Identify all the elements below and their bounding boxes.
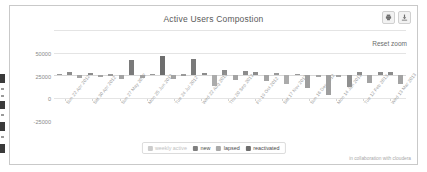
y-axis: 50000250000-25000 [10, 30, 51, 98]
bar[interactable] [378, 72, 383, 76]
legend-item-lapsed[interactable]: lapsed [216, 145, 239, 151]
legend-swatch-icon [193, 146, 198, 151]
legend-item-label: weekly active [155, 145, 187, 151]
legend-item-weekly-active[interactable]: weekly active [147, 145, 187, 151]
legend-item-label: lapsed [224, 145, 240, 151]
bar[interactable] [77, 75, 82, 78]
bar[interactable] [316, 75, 321, 77]
gridline [54, 53, 406, 54]
bar[interactable] [98, 75, 103, 77]
x-axis: Sun 22 Apr 2012Sat 30 Apr 2012Sun 27 May… [54, 99, 406, 131]
y-axis-tick-label: 25000 [35, 74, 51, 80]
bar[interactable] [67, 72, 72, 75]
legend-swatch-icon [216, 146, 221, 151]
legend-swatch-icon [147, 146, 152, 151]
legend-item-new[interactable]: new [193, 145, 210, 151]
y-axis-tick-label: 50000 [35, 51, 51, 57]
gridline [54, 30, 406, 31]
bar[interactable] [388, 72, 393, 76]
bar[interactable] [398, 75, 403, 84]
y-axis-tick-label: 0 [48, 96, 51, 102]
edge-fragment-dot-1 [1, 88, 4, 90]
bar[interactable] [119, 75, 124, 79]
legend-item-label: new [200, 145, 210, 151]
edge-fragment-dot-4 [1, 136, 4, 138]
zero-axis-line [54, 75, 406, 76]
bar[interactable] [233, 75, 238, 80]
chart-card: Active Users Compostion Reset zoom 50000… [9, 5, 418, 165]
legend-item-label: reactivated [253, 145, 279, 151]
bar[interactable] [243, 71, 248, 75]
bar[interactable] [264, 75, 269, 81]
credit-text: in collaboration with cloudera [349, 156, 411, 161]
bar[interactable] [367, 75, 372, 82]
edge-fragment-dot-3 [1, 114, 4, 116]
edge-fragment-dot-2 [1, 95, 4, 97]
bar[interactable] [191, 59, 196, 75]
bar[interactable] [284, 75, 289, 84]
edge-fragment-3 [0, 122, 5, 131]
bar[interactable] [129, 60, 134, 75]
legend-swatch-icon [246, 146, 251, 151]
bar[interactable] [150, 74, 155, 76]
chart-legend[interactable]: weekly activenewlapsedreactivated [141, 142, 285, 154]
left-edge-fragments [0, 0, 6, 172]
bar[interactable] [202, 73, 207, 76]
bar[interactable] [57, 74, 62, 76]
bar[interactable] [295, 74, 300, 76]
edge-fragment-1 [0, 74, 5, 83]
legend-item-reactivated[interactable]: reactivated [246, 145, 280, 151]
edge-fragment-2 [0, 101, 5, 109]
bar[interactable] [160, 56, 165, 75]
bar[interactable] [336, 75, 341, 77]
edge-fragment-4 [0, 144, 5, 153]
bar[interactable] [181, 74, 186, 76]
y-axis-tick-label: -25000 [34, 119, 51, 125]
